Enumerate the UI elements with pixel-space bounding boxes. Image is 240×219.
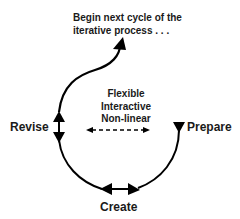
next-cycle-note-line-1: Begin next cycle of the	[73, 12, 182, 25]
next-cycle-arrowhead	[113, 37, 126, 50]
dashed-right-arrowhead	[143, 127, 150, 133]
next-cycle-note: Begin next cycle of the iterative proces…	[73, 12, 182, 37]
stage-create-label: Create	[100, 200, 137, 214]
next-cycle-note-line-2: iterative process . . .	[73, 25, 182, 38]
quality-interactive: Interactive	[96, 101, 156, 114]
revise-up-arrowhead	[53, 111, 65, 122]
dashed-left-arrowhead	[86, 127, 93, 133]
stage-revise-label: Revise	[10, 120, 49, 134]
prepare-to-create-arc	[138, 130, 179, 188]
process-qualities-note: Flexible Interactive Non-linear	[96, 88, 156, 126]
create-to-revise-arc	[59, 140, 102, 189]
revise-down-arrowhead	[53, 132, 65, 143]
quality-non-linear: Non-linear	[96, 113, 156, 126]
stage-prepare-label: Prepare	[187, 120, 232, 134]
quality-flexible: Flexible	[96, 88, 156, 101]
